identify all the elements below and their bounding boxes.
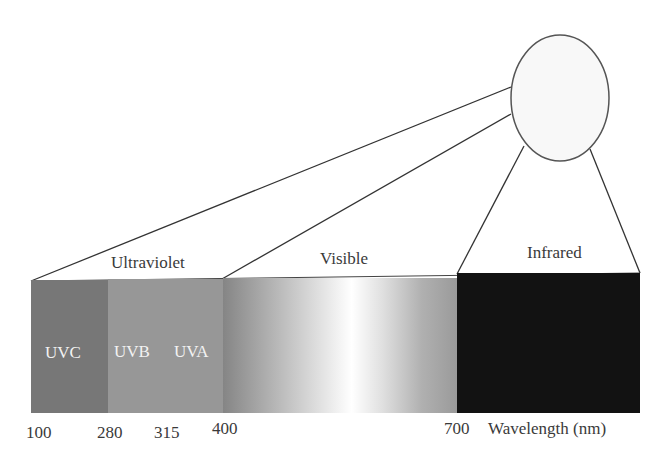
ir-left-ray	[457, 146, 524, 274]
band-visible	[223, 278, 457, 413]
tick-label-700: 700	[444, 420, 470, 437]
tick-label-315: 315	[154, 424, 180, 441]
region-label-visible: Visible	[320, 250, 368, 267]
ir-right-ray	[590, 149, 640, 273]
sun-icon	[511, 35, 609, 161]
uv-left-ray	[31, 87, 511, 281]
tick-label-280: 280	[97, 424, 123, 441]
subband-label-uvc: UVC	[45, 344, 81, 361]
region-label-infrared: Infrared	[527, 244, 582, 261]
axis-label: Wavelength (nm)	[488, 420, 606, 437]
band-infrared	[457, 273, 640, 413]
subband-label-uva: UVA	[174, 343, 209, 360]
region-label-ultraviolet: Ultraviolet	[111, 254, 185, 271]
tick-label-400: 400	[212, 420, 238, 437]
subband-label-uvb: UVB	[114, 343, 150, 360]
tick-label-100: 100	[26, 424, 52, 441]
